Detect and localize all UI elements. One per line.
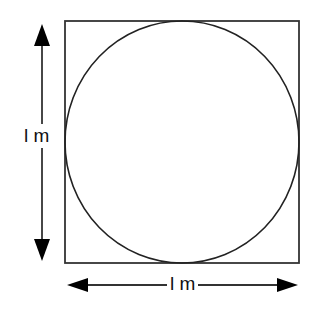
horizontal-dimension-label: l m (167, 274, 198, 294)
vertical-dimension-label: l m (24, 124, 49, 148)
arrow-down-icon (34, 239, 50, 261)
inscribed-circle (65, 21, 299, 263)
diagram-canvas (0, 0, 324, 313)
arrow-right-icon (277, 278, 298, 292)
square (65, 21, 299, 263)
arrow-left-icon (67, 278, 88, 292)
arrow-up-icon (34, 24, 50, 46)
